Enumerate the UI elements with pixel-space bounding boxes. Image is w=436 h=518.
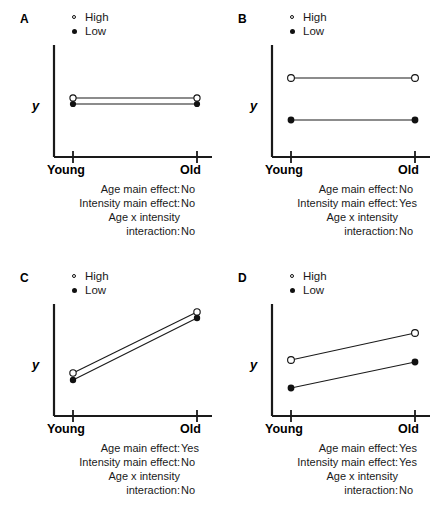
panel-d: D High Low y Young Old Age main effect: … bbox=[218, 259, 436, 518]
x-axis-captions: Young Old bbox=[218, 422, 436, 440]
data-point-low-young bbox=[70, 377, 76, 383]
effect-row-intensity-main: Intensity main effect: Yes bbox=[218, 196, 436, 210]
effect-label-age-main: Age main effect: bbox=[101, 441, 180, 455]
data-point-low-young bbox=[288, 385, 295, 392]
effect-row-interaction-line2: interaction: No bbox=[0, 483, 218, 497]
effect-row-interaction-line1: Age x intensity bbox=[0, 469, 218, 483]
effect-label-interaction-2: interaction: bbox=[126, 483, 180, 497]
panel-c: C High Low y Young Old Age main effect: … bbox=[0, 259, 218, 518]
effect-row-age-main: Age main effect: No bbox=[218, 182, 436, 196]
effect-row-interaction-line1: Age x intensity bbox=[0, 210, 218, 224]
x-label-old: Old bbox=[180, 422, 201, 436]
effect-label-intensity-main: Intensity main effect: bbox=[79, 196, 180, 210]
data-point-high-young bbox=[70, 95, 76, 101]
effect-value-age-main: Yes bbox=[181, 441, 199, 455]
effects-summary: Age main effect: No Intensity main effec… bbox=[218, 182, 436, 238]
effect-row-age-main: Age main effect: Yes bbox=[218, 441, 436, 455]
effect-label-interaction-1: Age x intensity bbox=[108, 210, 180, 224]
x-label-old: Old bbox=[398, 422, 419, 436]
effect-label-intensity-main: Intensity main effect: bbox=[297, 196, 398, 210]
effect-row-intensity-main: Intensity main effect: Yes bbox=[218, 455, 436, 469]
effect-label-interaction-1: Age x intensity bbox=[326, 210, 398, 224]
data-point-low-young bbox=[288, 117, 295, 124]
data-point-high-old bbox=[194, 95, 200, 101]
effect-row-interaction-line2: interaction: No bbox=[0, 224, 218, 238]
effect-row-interaction-line1: Age x intensity bbox=[218, 210, 436, 224]
panel-b: B High Low y Young Old Age main effect: … bbox=[218, 0, 436, 259]
x-label-young: Young bbox=[265, 422, 303, 436]
effect-value-intensity-main: Yes bbox=[399, 455, 417, 469]
effect-value-interaction: No bbox=[399, 483, 413, 497]
plot-area bbox=[218, 259, 436, 439]
data-point-high-old bbox=[412, 330, 419, 337]
series-line-low bbox=[291, 362, 415, 388]
effect-label-intensity-main: Intensity main effect: bbox=[79, 455, 180, 469]
plot-area bbox=[0, 0, 218, 180]
effect-value-intensity-main: Yes bbox=[399, 196, 417, 210]
effect-value-interaction: No bbox=[181, 224, 195, 238]
x-label-young: Young bbox=[47, 163, 85, 177]
data-point-low-old bbox=[412, 117, 419, 124]
effect-value-interaction: No bbox=[181, 483, 195, 497]
data-point-low-old bbox=[194, 101, 200, 107]
panel-a: A High Low y Young Old Age main effect: … bbox=[0, 0, 218, 259]
series-line-low bbox=[73, 318, 197, 380]
effect-label-intensity-main: Intensity main effect: bbox=[297, 455, 398, 469]
effect-label-interaction-2: interaction: bbox=[344, 224, 398, 238]
data-point-high-young bbox=[70, 370, 76, 376]
y-axis-label: y bbox=[32, 98, 39, 113]
series-line-high bbox=[73, 312, 197, 373]
effects-summary: Age main effect: Yes Intensity main effe… bbox=[0, 441, 218, 497]
data-point-low-old bbox=[194, 315, 200, 321]
x-label-young: Young bbox=[265, 163, 303, 177]
effect-row-interaction-line1: Age x intensity bbox=[218, 469, 436, 483]
x-axis-captions: Young Old bbox=[0, 422, 218, 440]
effect-label-interaction-2: interaction: bbox=[126, 224, 180, 238]
effects-summary: Age main effect: No Intensity main effec… bbox=[0, 182, 218, 238]
effect-value-interaction: No bbox=[399, 224, 413, 238]
x-label-young: Young bbox=[47, 422, 85, 436]
y-axis-label: y bbox=[32, 357, 39, 372]
y-axis-label: y bbox=[250, 98, 257, 113]
effect-label-interaction-1: Age x intensity bbox=[108, 469, 180, 483]
x-label-old: Old bbox=[398, 163, 419, 177]
effect-label-age-main: Age main effect: bbox=[319, 182, 398, 196]
effect-value-age-main: Yes bbox=[399, 441, 417, 455]
effect-row-age-main: Age main effect: No bbox=[0, 182, 218, 196]
effect-row-interaction-line2: interaction: No bbox=[218, 224, 436, 238]
x-label-old: Old bbox=[180, 163, 201, 177]
x-axis-captions: Young Old bbox=[218, 163, 436, 181]
series-line-high bbox=[291, 333, 415, 360]
plot-area bbox=[0, 259, 218, 439]
effect-label-age-main: Age main effect: bbox=[101, 182, 180, 196]
y-axis-label: y bbox=[250, 357, 257, 372]
effect-label-interaction-2: interaction: bbox=[344, 483, 398, 497]
effect-label-age-main: Age main effect: bbox=[319, 441, 398, 455]
effect-row-age-main: Age main effect: Yes bbox=[0, 441, 218, 455]
data-point-high-old bbox=[412, 75, 419, 82]
effects-summary: Age main effect: Yes Intensity main effe… bbox=[218, 441, 436, 497]
effect-row-intensity-main: Intensity main effect: No bbox=[0, 196, 218, 210]
plot-area bbox=[218, 0, 436, 180]
x-axis-captions: Young Old bbox=[0, 163, 218, 181]
data-point-high-young bbox=[288, 75, 295, 82]
effect-value-age-main: No bbox=[181, 182, 195, 196]
effect-row-intensity-main: Intensity main effect: No bbox=[0, 455, 218, 469]
effect-row-interaction-line2: interaction: No bbox=[218, 483, 436, 497]
effect-label-interaction-1: Age x intensity bbox=[326, 469, 398, 483]
data-point-high-young bbox=[288, 357, 295, 364]
effect-value-intensity-main: No bbox=[181, 196, 195, 210]
data-point-low-old bbox=[412, 359, 419, 366]
data-point-high-old bbox=[194, 309, 200, 315]
data-point-low-young bbox=[70, 101, 76, 107]
effect-value-age-main: No bbox=[399, 182, 413, 196]
effect-value-intensity-main: No bbox=[181, 455, 195, 469]
